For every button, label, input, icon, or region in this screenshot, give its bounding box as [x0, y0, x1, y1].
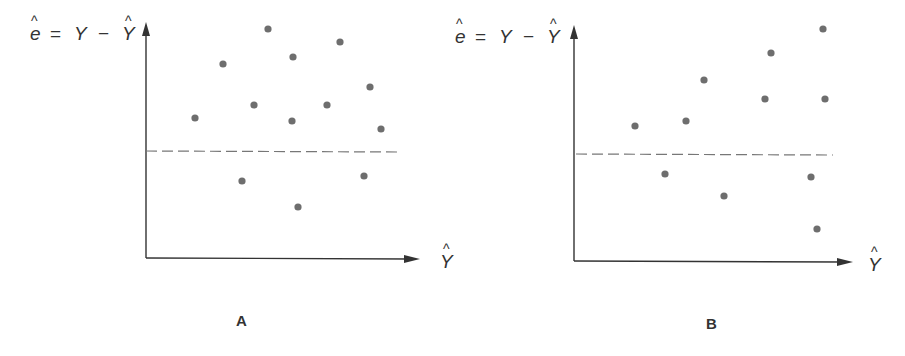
panel-a: e^=Y−Y^Y^A	[30, 13, 454, 329]
residual-point	[238, 177, 245, 184]
residual-point	[250, 101, 257, 108]
residual-point	[819, 25, 826, 32]
y-label-minus: −	[98, 23, 109, 44]
hat-accent: ^	[550, 16, 557, 32]
hat-accent: ^	[31, 13, 38, 29]
residual-point	[720, 192, 727, 199]
x-axis	[146, 258, 410, 259]
y-label-y: Y	[74, 23, 88, 44]
y-label-minus: −	[523, 26, 534, 47]
y-label-equals: =	[50, 23, 61, 44]
residual-point	[631, 122, 638, 129]
residual-point	[366, 83, 373, 90]
x-axis-arrow-icon	[837, 258, 853, 266]
y-axis-label: e^=Y−Y^	[30, 13, 136, 44]
residual-point	[821, 95, 828, 102]
residual-point	[813, 225, 820, 232]
y-label-y: Y	[499, 26, 513, 47]
hat-accent: ^	[443, 241, 450, 257]
panel-label-a: A	[236, 312, 247, 329]
residual-point	[191, 114, 198, 121]
residual-point	[323, 101, 330, 108]
residual-point	[336, 38, 343, 45]
residual-point	[264, 25, 271, 32]
zero-reference-line	[576, 154, 833, 155]
residual-point	[761, 95, 768, 102]
y-axis-arrow-icon	[142, 22, 150, 36]
y-axis-arrow-icon	[570, 25, 578, 39]
x-axis	[574, 261, 843, 262]
panel-label-b: B	[706, 315, 717, 332]
y-label-equals: =	[475, 26, 486, 47]
zero-reference-line	[146, 151, 398, 152]
residual-plots-figure: e^=Y−Y^Y^A e^=Y−Y^Y^B	[0, 0, 905, 356]
residual-point	[360, 172, 367, 179]
residual-point	[807, 173, 814, 180]
y-axis-label: e^=Y−Y^	[455, 16, 561, 47]
residual-point	[682, 117, 689, 124]
hat-accent: ^	[125, 13, 132, 29]
hat-accent: ^	[456, 16, 463, 32]
residual-point	[767, 49, 774, 56]
residual-point	[700, 76, 707, 83]
residual-point	[377, 125, 384, 132]
residual-point	[288, 117, 295, 124]
x-axis-arrow-icon	[404, 255, 420, 263]
residual-point	[294, 203, 301, 210]
residual-point	[289, 53, 296, 60]
hat-accent: ^	[871, 244, 878, 260]
panel-b: e^=Y−Y^Y^B	[455, 16, 882, 332]
residual-point	[219, 60, 226, 67]
residual-point	[661, 170, 668, 177]
